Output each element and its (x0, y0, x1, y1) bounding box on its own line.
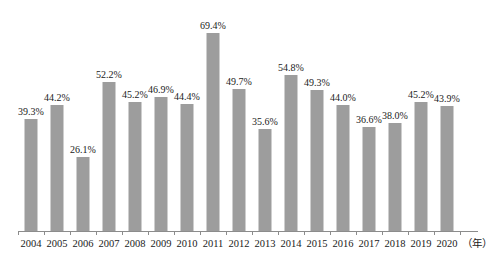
bar (129, 102, 142, 231)
bar (155, 97, 168, 231)
bar-group: 44.4% (174, 0, 200, 231)
bar-value-label: 49.3% (304, 77, 330, 88)
x-axis-tick (304, 231, 305, 235)
bar-group: 54.8% (278, 0, 304, 231)
x-axis-tick (434, 231, 435, 235)
x-axis-tick (252, 231, 253, 235)
x-axis-tick (356, 231, 357, 235)
bar (207, 33, 220, 231)
bar-value-label: 46.9% (148, 84, 174, 95)
bar (441, 106, 454, 231)
bar-group: 46.9% (148, 0, 174, 231)
bar-value-label: 39.3% (18, 106, 44, 117)
bar-value-label: 43.9% (434, 93, 460, 104)
bar (25, 119, 38, 231)
bar-group: 39.3% (18, 0, 44, 231)
x-axis-tick (226, 231, 227, 235)
bar (311, 90, 324, 231)
bar-group: 69.4% (200, 0, 226, 231)
bar-value-label: 38.0% (382, 110, 408, 121)
x-axis-labels: 2004200520062007200820092010201120122013… (0, 237, 497, 253)
x-axis-tick (70, 231, 71, 235)
bar-group: 44.0% (330, 0, 356, 231)
bar-group: 52.2% (96, 0, 122, 231)
bar-value-label: 69.4% (200, 20, 226, 31)
x-axis-tick (44, 231, 45, 235)
bar (103, 82, 116, 231)
plot-area: 39.3%44.2%26.1%52.2%45.2%46.9%44.4%69.4%… (0, 0, 497, 231)
bar-group: 43.9% (434, 0, 460, 231)
x-axis-tick (174, 231, 175, 235)
bar (259, 129, 272, 231)
bar-group: 36.6% (356, 0, 382, 231)
bar (415, 102, 428, 231)
bar (285, 75, 298, 231)
bar-value-label: 45.2% (408, 89, 434, 100)
bar (337, 105, 350, 231)
bar-group: 26.1% (70, 0, 96, 231)
bar-value-label: 36.6% (356, 114, 382, 125)
bar (181, 104, 194, 231)
bar-value-label: 26.1% (70, 144, 96, 155)
bar-chart: 39.3%44.2%26.1%52.2%45.2%46.9%44.4%69.4%… (0, 0, 497, 261)
x-axis-tick (122, 231, 123, 235)
x-axis-unit-label: （年） (462, 237, 492, 251)
bar (389, 123, 402, 231)
bar-group: 49.7% (226, 0, 252, 231)
bar (363, 127, 376, 231)
bar (233, 89, 246, 231)
bar-value-label: 35.6% (252, 116, 278, 127)
bar (77, 157, 90, 231)
bar-group: 35.6% (252, 0, 278, 231)
x-axis-tick (330, 231, 331, 235)
bar-value-label: 54.8% (278, 62, 304, 73)
x-axis-tick (96, 231, 97, 235)
bar-group: 45.2% (408, 0, 434, 231)
bar (51, 105, 64, 231)
x-axis-tick (148, 231, 149, 235)
x-axis-line (18, 231, 478, 232)
x-axis-tick (200, 231, 201, 235)
bar-value-label: 44.0% (330, 92, 356, 103)
x-axis-tick (460, 231, 461, 235)
bar-value-label: 52.2% (96, 69, 122, 80)
bar-group: 44.2% (44, 0, 70, 231)
x-axis-tick (408, 231, 409, 235)
bar-value-label: 44.4% (174, 91, 200, 102)
bar-group: 38.0% (382, 0, 408, 231)
x-axis-tick (382, 231, 383, 235)
bar-group: 45.2% (122, 0, 148, 231)
bar-value-label: 44.2% (44, 92, 70, 103)
bar-group: 49.3% (304, 0, 330, 231)
x-axis-tick (278, 231, 279, 235)
x-axis-tick-label: 2020 (430, 237, 464, 251)
bar-value-label: 49.7% (226, 76, 252, 87)
x-axis-tick (18, 231, 19, 235)
bar-value-label: 45.2% (122, 89, 148, 100)
